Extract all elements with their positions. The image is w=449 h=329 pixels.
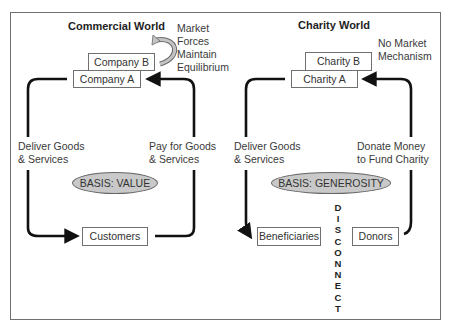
label-line: & Services — [234, 153, 301, 166]
market-note-line: Maintain — [177, 48, 229, 61]
market-forces-note: Market Forces Maintain Equilibrium — [177, 22, 229, 74]
market-note-line: Mechanism — [378, 50, 432, 63]
label-line: Deliver Goods — [234, 140, 301, 153]
charity-a-box: Charity A — [291, 70, 358, 88]
company-a-box: Company A — [73, 70, 141, 88]
commercial-world-title: Commercial World — [68, 20, 165, 32]
disconnect-vertical-label: D I S C O N N E C T — [332, 202, 344, 314]
label-line: Deliver Goods — [18, 140, 85, 153]
disconnect-letter: D — [332, 202, 344, 213]
label-line: Donate Money — [357, 140, 429, 153]
commercial-deliver-label: Deliver Goods & Services — [18, 140, 85, 166]
disconnect-letter: T — [332, 303, 344, 314]
label-line: & Services — [18, 153, 85, 166]
market-note-line: No Market — [378, 37, 432, 50]
disconnect-letter: E — [332, 280, 344, 291]
market-note-line: Equilibrium — [177, 61, 229, 74]
charity-deliver-label: Deliver Goods & Services — [234, 140, 301, 166]
market-note-line: Forces — [177, 35, 229, 48]
basis-value-oval: BASIS: VALUE — [72, 172, 158, 194]
disconnect-letter: S — [332, 224, 344, 235]
label-line: & Services — [149, 153, 216, 166]
customers-box: Customers — [82, 227, 148, 246]
basis-generosity-oval: BASIS: GENEROSITY — [271, 172, 391, 194]
disconnect-letter: N — [332, 258, 344, 269]
beneficiaries-box: Beneficiaries — [257, 227, 321, 246]
charity-b-box: Charity B — [305, 52, 372, 71]
disconnect-letter: N — [332, 269, 344, 280]
disconnect-letter: C — [332, 292, 344, 303]
company-b-box: Company B — [88, 53, 155, 71]
market-note-line: Market — [177, 22, 229, 35]
charity-donate-label: Donate Money to Fund Charity — [357, 140, 429, 166]
disconnect-letter: I — [332, 213, 344, 224]
no-market-note: No Market Mechanism — [378, 37, 432, 63]
label-line: to Fund Charity — [357, 153, 429, 166]
donors-box: Donors — [352, 227, 399, 246]
charity-world-title: Charity World — [298, 19, 370, 31]
disconnect-letter: C — [332, 236, 344, 247]
label-line: Pay for Goods — [149, 140, 216, 153]
commercial-pay-label: Pay for Goods & Services — [149, 140, 216, 166]
disconnect-letter: O — [332, 247, 344, 258]
market-forces-curved-arrow-icon — [152, 35, 175, 64]
